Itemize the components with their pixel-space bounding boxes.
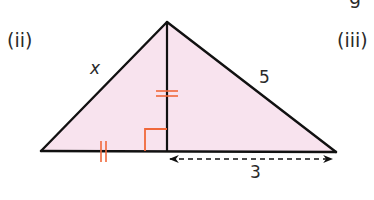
side-label-x: x (90, 60, 100, 77)
base-line (41, 151, 336, 152)
right-triangle-diagram (0, 0, 374, 200)
side-label-3: 3 (250, 164, 261, 181)
part-label-iii: (iii) (337, 31, 368, 50)
side-label-5: 5 (259, 69, 270, 86)
partial-glyph: g (349, 0, 361, 8)
triangle-fill (41, 22, 336, 152)
part-label-ii: (ii) (7, 31, 32, 50)
